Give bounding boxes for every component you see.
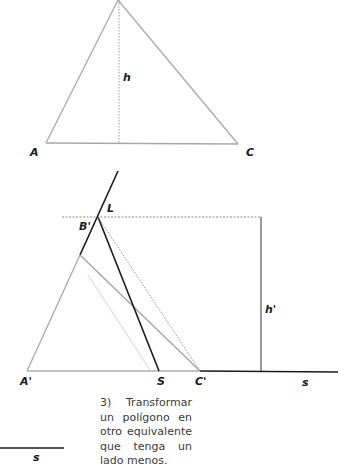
label-c: C (246, 147, 254, 158)
label-line-s: s (302, 377, 309, 388)
triangle-abc (46, 0, 238, 144)
construction-figure (27, 171, 338, 372)
label-h: h (123, 72, 131, 83)
label-segment-s: s (33, 452, 40, 463)
label-h-prime: h' (265, 304, 276, 315)
label-a-prime: A' (20, 376, 32, 387)
label-a: A (30, 147, 39, 158)
caption-text: 3) Transformar un polígono en otro equiv… (100, 396, 192, 469)
label-c-prime: C' (195, 376, 206, 387)
label-l: L (107, 203, 114, 214)
label-b-prime: B' (79, 221, 91, 232)
line-s (200, 371, 338, 372)
label-s-point: S (157, 376, 165, 387)
